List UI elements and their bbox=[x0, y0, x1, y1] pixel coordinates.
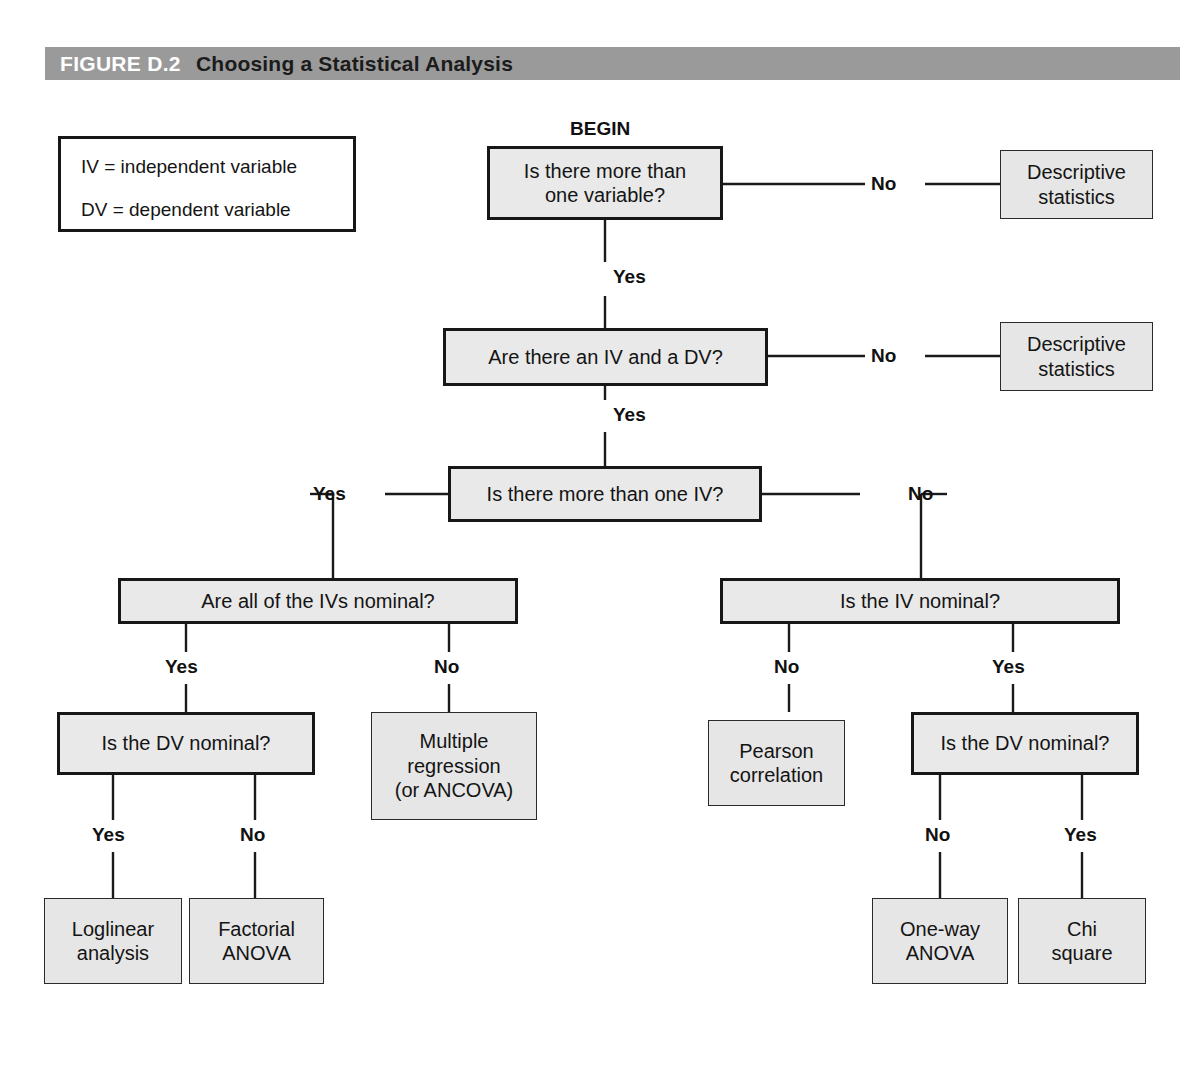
edge-label-q5left-no: No bbox=[240, 824, 265, 846]
decision-text: Are all of the IVs nominal? bbox=[201, 589, 434, 613]
terminal-line-1: One-way bbox=[900, 917, 980, 941]
figure-page: FIGURE D.2 Choosing a Statistical Analys… bbox=[0, 0, 1203, 1070]
decision-text: Is the DV nominal? bbox=[102, 731, 271, 755]
terminal-loglinear-analysis[interactable]: Loglinear analysis bbox=[44, 898, 182, 984]
edge-label-q5right-yes: Yes bbox=[1064, 824, 1097, 846]
begin-label: BEGIN bbox=[570, 118, 630, 140]
edge-label-q4right-yes: Yes bbox=[992, 656, 1025, 678]
edge-label-q5right-no: No bbox=[925, 824, 950, 846]
terminal-line-3: (or ANCOVA) bbox=[395, 778, 514, 802]
legend-box: IV = independent variable DV = dependent… bbox=[58, 136, 356, 232]
legend-line-dv: DV = dependent variable bbox=[81, 198, 335, 221]
legend-line-iv: IV = independent variable bbox=[81, 155, 335, 178]
edge-label-q4right-no: No bbox=[774, 656, 799, 678]
terminal-factorial-anova[interactable]: Factorial ANOVA bbox=[189, 898, 324, 984]
terminal-line-2: statistics bbox=[1038, 185, 1115, 209]
terminal-chi-square[interactable]: Chi square bbox=[1018, 898, 1146, 984]
edge-label-q3-no: No bbox=[908, 483, 933, 505]
decision-line-1: Is there more than bbox=[524, 159, 686, 183]
decision-text: Is the DV nominal? bbox=[941, 731, 1110, 755]
terminal-line-1: Loglinear bbox=[72, 917, 154, 941]
edge-label-q4left-no: No bbox=[434, 656, 459, 678]
terminal-line-2: statistics bbox=[1038, 357, 1115, 381]
terminal-line-2: analysis bbox=[77, 941, 149, 965]
terminal-descriptive-statistics-1[interactable]: Descriptive statistics bbox=[1000, 150, 1153, 219]
terminal-pearson-correlation[interactable]: Pearson correlation bbox=[708, 720, 845, 806]
decision-text: Is the IV nominal? bbox=[840, 589, 1000, 613]
edge-label-q2-no: No bbox=[871, 345, 896, 367]
terminal-multiple-regression[interactable]: Multiple regression (or ANCOVA) bbox=[371, 712, 537, 820]
decision-dv-nominal-left[interactable]: Is the DV nominal? bbox=[57, 712, 315, 775]
terminal-line-1: Pearson bbox=[739, 739, 814, 763]
terminal-line-1: Chi bbox=[1067, 917, 1097, 941]
edge-label-q2-yes: Yes bbox=[613, 404, 646, 426]
decision-iv-and-dv[interactable]: Are there an IV and a DV? bbox=[443, 328, 768, 386]
terminal-line-2: ANOVA bbox=[222, 941, 291, 965]
terminal-line-1: Multiple bbox=[420, 729, 489, 753]
terminal-line-2: square bbox=[1051, 941, 1112, 965]
terminal-line-2: correlation bbox=[730, 763, 823, 787]
decision-iv-nominal[interactable]: Is the IV nominal? bbox=[720, 578, 1120, 624]
terminal-line-2: ANOVA bbox=[906, 941, 975, 965]
terminal-line-1: Descriptive bbox=[1027, 332, 1126, 356]
decision-line-2: one variable? bbox=[545, 183, 665, 207]
terminal-line-2: regression bbox=[407, 754, 500, 778]
edge-label-q1-no: No bbox=[871, 173, 896, 195]
decision-more-than-one-variable[interactable]: Is there more than one variable? bbox=[487, 146, 723, 220]
terminal-one-way-anova[interactable]: One-way ANOVA bbox=[872, 898, 1008, 984]
decision-more-than-one-iv[interactable]: Is there more than one IV? bbox=[448, 466, 762, 522]
decision-dv-nominal-right[interactable]: Is the DV nominal? bbox=[911, 712, 1139, 775]
edge-label-q5left-yes: Yes bbox=[92, 824, 125, 846]
decision-text: Is there more than one IV? bbox=[487, 482, 724, 506]
edge-label-q1-yes: Yes bbox=[613, 266, 646, 288]
terminal-line-1: Descriptive bbox=[1027, 160, 1126, 184]
decision-all-ivs-nominal[interactable]: Are all of the IVs nominal? bbox=[118, 578, 518, 624]
edge-label-q4left-yes: Yes bbox=[165, 656, 198, 678]
terminal-descriptive-statistics-2[interactable]: Descriptive statistics bbox=[1000, 322, 1153, 391]
edge-label-q3-yes: Yes bbox=[313, 483, 346, 505]
terminal-line-1: Factorial bbox=[218, 917, 295, 941]
decision-text: Are there an IV and a DV? bbox=[488, 345, 723, 369]
